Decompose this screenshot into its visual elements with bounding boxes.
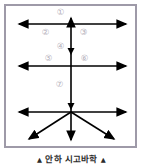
direction-diagram <box>6 6 139 150</box>
step-marker-2: ② <box>40 27 51 38</box>
figure-caption: ▲안하 시고바학▲ <box>0 152 143 164</box>
step-marker-4: ④ <box>55 41 66 52</box>
arrowhead-below-step-4 <box>68 48 75 55</box>
fan-arrow-right <box>71 112 114 139</box>
step-marker-6: ⑥ <box>79 53 90 64</box>
arrowhead-above-line-3 <box>68 103 75 110</box>
figure-root: ① ② ③ ④ ⑤ ⑥ ⑦ ▲안하 시고바학▲ <box>0 0 143 165</box>
diagram-frame: ① ② ③ ④ ⑤ ⑥ ⑦ <box>4 4 137 148</box>
step-marker-3: ③ <box>78 27 89 38</box>
caption-right-triangle-icon: ▲ <box>98 156 109 164</box>
step-marker-1: ① <box>55 7 66 18</box>
fan-arrow-left <box>29 112 71 139</box>
step-marker-5: ⑤ <box>43 53 54 64</box>
step-marker-7: ⑦ <box>54 79 65 90</box>
caption-text: 안하 시고바학 <box>45 154 97 164</box>
caption-left-triangle-icon: ▲ <box>34 156 45 164</box>
